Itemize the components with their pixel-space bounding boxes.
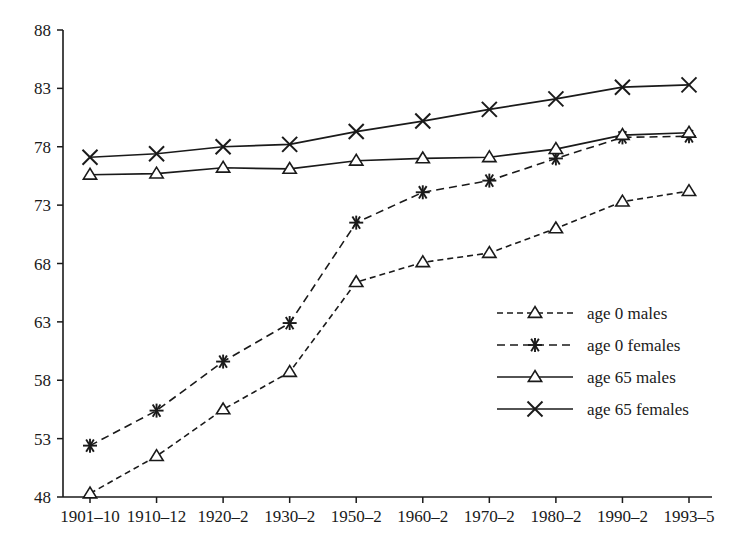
legend-label: age 0 males: [587, 304, 667, 323]
x-tick-label: 1930–2: [264, 507, 315, 526]
x-tick-label: 1901–10: [60, 507, 120, 526]
line-chart: 485358636873788388 1901–101910–121920–21…: [0, 0, 747, 535]
x-tick-label: 1910–12: [127, 507, 187, 526]
legend-label: age 65 males: [587, 368, 676, 387]
x-tick-label: 1990–2: [597, 507, 648, 526]
x-tick-label: 1960–2: [397, 507, 448, 526]
y-tick-label: 73: [34, 196, 51, 215]
y-tick-label: 88: [34, 21, 51, 40]
x-tick-label: 1950–2: [331, 507, 382, 526]
legend-label: age 65 females: [587, 400, 689, 419]
chart-canvas: 485358636873788388 1901–101910–121920–21…: [0, 0, 747, 535]
y-tick-label: 78: [34, 138, 51, 157]
y-tick-label: 83: [34, 79, 51, 98]
y-tick-label: 53: [34, 430, 51, 449]
x-tick-label: 1970–2: [464, 507, 515, 526]
y-tick-label: 48: [34, 488, 51, 507]
chart-background: [0, 0, 747, 535]
y-tick-label: 63: [34, 313, 51, 332]
x-tick-label: 1993–5: [664, 507, 715, 526]
y-tick-label: 68: [34, 255, 51, 274]
y-tick-label: 58: [34, 371, 51, 390]
x-tick-label: 1980–2: [530, 507, 581, 526]
x-tick-label: 1920–2: [198, 507, 249, 526]
legend-label: age 0 females: [587, 336, 680, 355]
